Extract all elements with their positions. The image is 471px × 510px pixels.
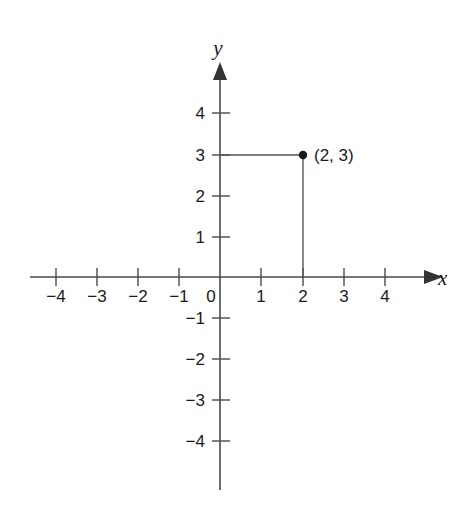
data-point-2-3 bbox=[299, 151, 307, 159]
x-tick-label-2: 2 bbox=[298, 287, 307, 306]
x-tick-label--3: −3 bbox=[87, 287, 106, 306]
y-tick-label-4: 4 bbox=[196, 104, 205, 123]
x-tick-label-4: 4 bbox=[380, 287, 389, 306]
x-tick-label-3: 3 bbox=[339, 287, 348, 306]
y-tick-label--3: −3 bbox=[186, 391, 205, 410]
coordinate-plot: −4 −3 −2 −1 0 1 2 3 4 4 3 2 1 −1 −2 −3 −… bbox=[0, 0, 471, 510]
y-axis-arrowhead bbox=[213, 62, 227, 80]
origin-label: 0 bbox=[206, 287, 215, 306]
y-tick-label--1: −1 bbox=[186, 309, 205, 328]
y-tick-label--4: −4 bbox=[186, 432, 205, 451]
y-axis-label: y bbox=[211, 36, 223, 60]
x-tick-label--1: −1 bbox=[169, 287, 188, 306]
y-tick-label--2: −2 bbox=[186, 350, 205, 369]
x-axis-tick-labels: −4 −3 −2 −1 0 1 2 3 4 bbox=[46, 287, 389, 306]
point-coordinate-label: (2, 3) bbox=[314, 146, 354, 165]
x-tick-label--2: −2 bbox=[128, 287, 147, 306]
coordinate-plane-figure: −4 −3 −2 −1 0 1 2 3 4 4 3 2 1 −1 −2 −3 −… bbox=[0, 0, 471, 510]
y-tick-label-1: 1 bbox=[196, 228, 205, 247]
y-tick-label-2: 2 bbox=[196, 187, 205, 206]
x-tick-label--4: −4 bbox=[46, 287, 65, 306]
x-axis-label: x bbox=[437, 266, 448, 290]
y-tick-label-3: 3 bbox=[196, 146, 205, 165]
x-tick-label-1: 1 bbox=[256, 287, 265, 306]
